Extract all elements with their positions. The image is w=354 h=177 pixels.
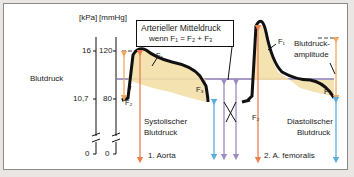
mean-pressure-box: Arterieller Mitteldruck wenn F₁ = F₂ + F… <box>136 20 234 47</box>
tick-kpa-0: 0 <box>85 150 89 158</box>
diastolic-label-2: Blutdruck <box>297 129 330 137</box>
tick-mmhg-120: 120 <box>99 47 112 55</box>
systolic-label-1: Systolischer <box>144 118 187 126</box>
panel-label-femoral: 2. A. femoralis <box>264 152 315 160</box>
amplitude-label-2: amplitude <box>294 51 329 59</box>
diastolic-label-1: Diastolischer <box>287 118 333 126</box>
mmhg-axis <box>112 37 120 154</box>
tick-kpa-16: 16 <box>82 47 91 55</box>
area-f2-femoral: F₂ <box>252 114 260 122</box>
y-axis-label: Blutdruck <box>30 75 63 83</box>
area-f1-aorta: F₁ <box>156 52 163 60</box>
area-f1-femoral: F₁ <box>278 38 285 46</box>
amplitude-label-1: Blutdruck- <box>294 40 330 48</box>
area-f3-aorta: F₃ <box>196 86 204 94</box>
unit-mmhg-label: [mmHg] <box>99 14 127 22</box>
tick-kpa-10-7: 10,7 <box>73 95 89 103</box>
area-f3-femoral: F₃ <box>324 88 332 96</box>
tick-mmhg-80: 80 <box>103 95 112 103</box>
mean-pressure-title: Arterieller Mitteldruck <box>141 24 221 33</box>
tick-mmhg-0: 0 <box>105 150 109 158</box>
mean-pressure-condition: wenn F₁ = F₂ + F₃ <box>149 35 212 43</box>
unit-kpa-label: [kPa] <box>79 14 97 22</box>
systolic-label-2: Blutdruck <box>144 129 177 137</box>
panel-label-aorta: 1. Aorta <box>148 152 176 160</box>
area-f2-aorta: F₂ <box>125 99 133 107</box>
